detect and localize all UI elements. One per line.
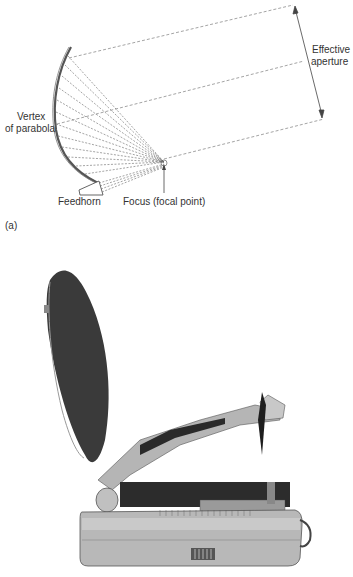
reflected-rays xyxy=(56,56,164,192)
feed-arm xyxy=(98,405,280,490)
label-panel-a: (a) xyxy=(5,220,17,232)
label-vertex: Vertex xyxy=(17,111,45,123)
focus-marker xyxy=(161,160,167,193)
label-aperture: aperture xyxy=(311,56,348,68)
label-of-parabola: of parabola xyxy=(5,123,55,135)
dish-photo xyxy=(47,270,109,462)
incoming-rays xyxy=(57,5,324,159)
parabolic-antenna-diagram xyxy=(0,0,353,577)
satellite-terminal-photo xyxy=(44,270,311,566)
hinge-knob xyxy=(96,488,118,512)
label-feedhorn: Feedhorn xyxy=(58,196,101,208)
label-effective: Effective xyxy=(312,44,350,56)
label-focus: Focus (focal point) xyxy=(123,196,205,208)
